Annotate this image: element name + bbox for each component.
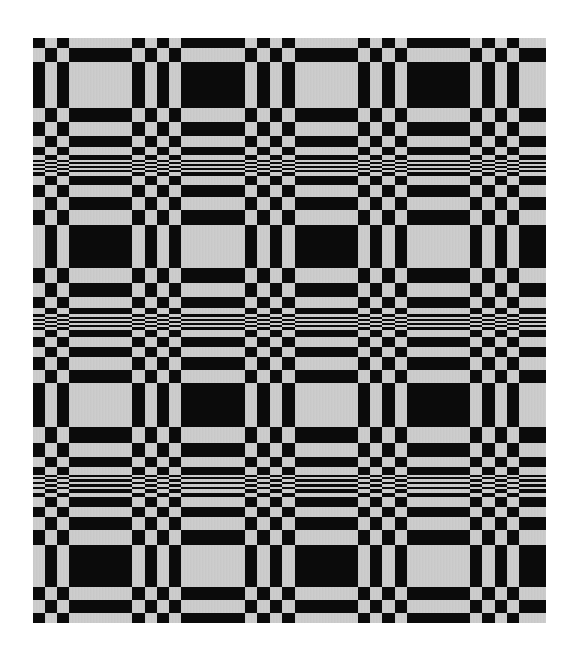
weave-block: [282, 383, 295, 427]
weave-block: [495, 197, 507, 210]
weave-block: [470, 38, 482, 48]
weave-block: [407, 197, 470, 210]
weave-block: [370, 225, 382, 268]
weave-block: [132, 225, 145, 268]
weave-block: [470, 62, 482, 108]
weave-block: [69, 357, 132, 370]
weave-block: [169, 136, 181, 147]
weave-block: [245, 62, 257, 108]
weave-block: [382, 185, 395, 197]
weave-block: [57, 370, 69, 383]
weave-block: [245, 176, 257, 185]
weave-block: [57, 225, 69, 268]
weave-block: [169, 48, 181, 62]
weave-block: [169, 497, 181, 507]
weave-block: [495, 497, 507, 507]
weave-block: [370, 176, 382, 185]
weave-block: [470, 122, 482, 136]
weave-block: [507, 136, 519, 147]
weave-block: [495, 136, 507, 147]
weave-block: [370, 147, 382, 155]
weave-block: [495, 383, 507, 427]
weave-block: [169, 517, 181, 530]
weave-block: [132, 497, 145, 507]
weave-block: [69, 337, 132, 347]
weave-block: [181, 176, 245, 185]
weave-block: [257, 530, 270, 545]
weave-block: [407, 122, 470, 136]
weave-block: [519, 517, 546, 530]
weave-block: [181, 467, 245, 475]
weave-block: [482, 297, 495, 308]
weave-block: [395, 176, 407, 185]
weave-block: [45, 122, 57, 136]
weave-block: [519, 383, 546, 427]
weave-block: [519, 268, 546, 283]
weave-block: [270, 457, 282, 467]
weave-block: [407, 357, 470, 370]
weave-block: [169, 443, 181, 457]
weave-block: [169, 427, 181, 443]
weave-block: [358, 457, 370, 467]
weave-block: [33, 530, 45, 545]
weave-block: [45, 210, 57, 225]
weave-block: [507, 197, 519, 210]
weave-block: [282, 210, 295, 225]
weave-block: [407, 136, 470, 147]
weave-block: [45, 283, 57, 297]
weave-block: [382, 507, 395, 517]
weave-block: [519, 337, 546, 347]
weave-block: [145, 48, 157, 62]
weave-block: [145, 587, 157, 600]
weave-block: [157, 443, 169, 457]
weave-block: [257, 330, 270, 337]
weave-block: [181, 330, 245, 337]
weave-block: [145, 427, 157, 443]
weave-block: [157, 48, 169, 62]
weave-block: [482, 48, 495, 62]
weave-block: [370, 530, 382, 545]
weave-block: [395, 587, 407, 600]
weave-block: [169, 38, 181, 48]
weave-block: [57, 337, 69, 347]
weave-block: [245, 347, 257, 357]
weave-block: [57, 122, 69, 136]
weave-block: [157, 297, 169, 308]
weave-block: [145, 383, 157, 427]
weave-block: [282, 108, 295, 122]
weave-block: [45, 197, 57, 210]
weave-block: [270, 122, 282, 136]
weave-block: [395, 443, 407, 457]
weave-block: [358, 225, 370, 268]
weave-block: [382, 545, 395, 587]
weave-block: [382, 370, 395, 383]
weave-block: [69, 197, 132, 210]
weave-block: [270, 427, 282, 443]
weave-block: [382, 347, 395, 357]
weave-block: [382, 517, 395, 530]
weave-block: [395, 530, 407, 545]
weave-block: [57, 197, 69, 210]
weave-block: [257, 108, 270, 122]
weave-block: [282, 587, 295, 600]
weave-block: [470, 347, 482, 357]
weave-block: [482, 225, 495, 268]
weave-block: [45, 62, 57, 108]
weave-block: [370, 370, 382, 383]
weave-block: [482, 268, 495, 283]
weave-block: [295, 48, 358, 62]
weave-block: [507, 283, 519, 297]
weave-block: [507, 38, 519, 48]
weave-block: [358, 613, 370, 623]
weave-block: [358, 517, 370, 530]
weave-block: [382, 197, 395, 210]
weave-block: [181, 268, 245, 283]
weave-block: [295, 497, 358, 507]
weave-block: [382, 337, 395, 347]
weave-block: [69, 587, 132, 600]
weave-block: [57, 497, 69, 507]
weave-block: [132, 457, 145, 467]
weave-block: [507, 176, 519, 185]
weave-block: [395, 370, 407, 383]
weave-block: [282, 147, 295, 155]
